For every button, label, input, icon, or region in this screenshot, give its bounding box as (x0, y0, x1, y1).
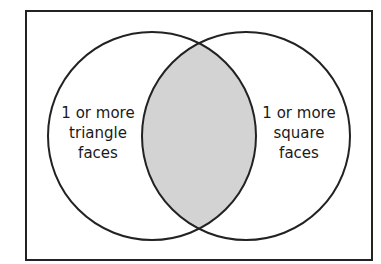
label-line: 1 or more (53, 103, 143, 123)
label-line: 1 or more (254, 103, 344, 123)
label-line: triangle (53, 123, 143, 143)
label-square-faces: 1 or more square faces (254, 103, 344, 163)
label-triangle-faces: 1 or more triangle faces (53, 103, 143, 163)
label-line: square (254, 123, 344, 143)
label-line: faces (53, 143, 143, 163)
label-line: faces (254, 143, 344, 163)
